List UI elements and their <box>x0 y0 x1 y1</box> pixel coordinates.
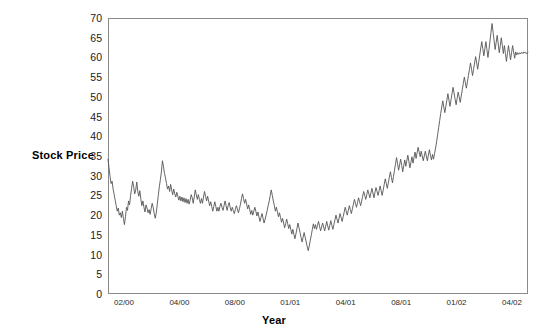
y-axis-tick-label-45: 45 <box>72 112 102 122</box>
y-axis-tick-label-25: 25 <box>72 190 102 200</box>
stock-price-line-series <box>108 18 528 294</box>
stock-price-chart: Stock Price 0510152025303540455055606570… <box>0 0 548 335</box>
x-axis-tick-label-5: 08/01 <box>371 298 431 307</box>
y-axis-tick-label-60: 60 <box>72 52 102 62</box>
x-axis-tick-label-2: 08/00 <box>205 298 265 307</box>
x-axis-title: Year <box>0 314 548 326</box>
y-axis-tick-label-15: 15 <box>72 230 102 240</box>
y-axis-tick-label-65: 65 <box>72 33 102 43</box>
x-axis-tick-label-6: 01/02 <box>427 298 487 307</box>
y-axis-tick-label-35: 35 <box>72 151 102 161</box>
y-axis-tick-label-70: 70 <box>72 13 102 23</box>
y-axis-tick-label-50: 50 <box>72 92 102 102</box>
y-axis-tick-label-10: 10 <box>72 250 102 260</box>
y-axis-tick-label-5: 5 <box>72 269 102 279</box>
x-axis-tick-label-7: 04/02 <box>482 298 542 307</box>
x-axis-tick-label-1: 04/00 <box>149 298 209 307</box>
series-polyline <box>108 24 528 251</box>
y-axis-tick-label-55: 55 <box>72 72 102 82</box>
x-axis-tick-label-3: 01/01 <box>260 298 320 307</box>
y-axis-tick-label-30: 30 <box>72 171 102 181</box>
y-axis-tick-label-20: 20 <box>72 210 102 220</box>
x-axis-tick-label-4: 04/01 <box>316 298 376 307</box>
x-axis-tick-label-0: 02/00 <box>94 298 154 307</box>
y-axis-tick-label-40: 40 <box>72 131 102 141</box>
